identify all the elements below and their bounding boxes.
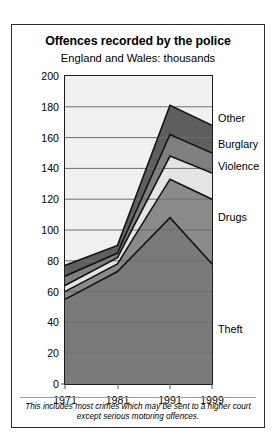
y-tick-label-0: 0 <box>19 378 59 390</box>
y-tick-label-100: 100 <box>19 224 59 236</box>
area-bands <box>65 105 212 384</box>
y-tick-label-180: 180 <box>19 101 59 113</box>
y-tick-label-140: 140 <box>19 162 59 174</box>
chart-footnote: This includes most crimes which may be s… <box>20 397 256 423</box>
x-tick-mark-1971 <box>65 384 66 389</box>
series-label-other: Other <box>218 112 245 124</box>
y-tick-label-60: 60 <box>19 286 59 298</box>
x-tick-mark-1991 <box>170 384 171 389</box>
y-tick-label-120: 120 <box>19 193 59 205</box>
series-label-burglary: Burglary <box>218 138 258 150</box>
chart-title: Offences recorded by the police <box>12 34 264 48</box>
stacked-area-plot <box>65 76 212 384</box>
y-tick-label-160: 160 <box>19 132 59 144</box>
y-tick-label-40: 40 <box>19 316 59 328</box>
x-tick-mark-1981 <box>117 384 118 389</box>
series-label-theft: Theft <box>218 323 243 335</box>
x-tick-mark-1999 <box>212 384 213 389</box>
y-tick-label-200: 200 <box>19 70 59 82</box>
chart-figure: Offences recorded by the police England … <box>11 24 265 428</box>
series-label-drugs: Drugs <box>218 211 247 223</box>
y-tick-label-20: 20 <box>19 347 59 359</box>
plot-area: 020406080100120140160180200 197119811991… <box>64 75 213 385</box>
y-tick-label-80: 80 <box>19 255 59 267</box>
series-label-violence: Violence <box>218 160 259 172</box>
chart-subtitle: England and Wales: thousands <box>12 52 264 64</box>
